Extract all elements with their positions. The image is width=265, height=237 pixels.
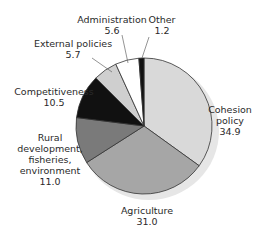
label-name: fisheries, xyxy=(10,154,90,165)
label-name: policy xyxy=(202,115,258,126)
label-name: development, xyxy=(10,143,90,154)
label-value: 1.2 xyxy=(142,25,182,36)
label-value: 10.5 xyxy=(6,97,102,108)
label-name: Cohesion xyxy=(202,104,258,115)
pie-slices xyxy=(76,58,212,194)
label-value: 5.7 xyxy=(28,49,118,60)
label-cohesion-policy: Cohesion policy 34.9 xyxy=(202,104,258,137)
label-name: Competitiveness xyxy=(6,86,102,97)
label-value: 31.0 xyxy=(112,216,182,227)
label-name: environment xyxy=(10,165,90,176)
label-name: Rural xyxy=(10,132,90,143)
label-external-policies: External policies 5.7 xyxy=(28,38,118,60)
label-name: Administration xyxy=(72,14,152,25)
label-administration: Administration 5.6 xyxy=(72,14,152,36)
label-rural-development: Rural development, fisheries, environmen… xyxy=(10,132,90,187)
label-competitiveness: Competitiveness 10.5 xyxy=(6,86,102,108)
label-name: Agriculture xyxy=(112,205,182,216)
label-name: External policies xyxy=(28,38,118,49)
label-name: Other xyxy=(142,14,182,25)
label-value: 34.9 xyxy=(202,126,258,137)
label-value: 11.0 xyxy=(10,176,90,187)
label-value: 5.6 xyxy=(72,25,152,36)
label-other: Other 1.2 xyxy=(142,14,182,36)
label-agriculture: Agriculture 31.0 xyxy=(112,205,182,227)
